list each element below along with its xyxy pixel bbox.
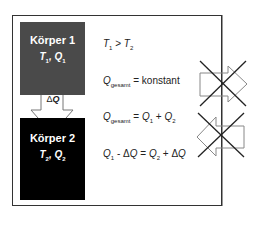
body-2-title: Körper 2 xyxy=(20,132,85,144)
body-1: Körper 1 T1, Q1 xyxy=(20,22,85,95)
body-1-title: Körper 1 xyxy=(20,34,85,46)
equation-temperature: T1 > T2 xyxy=(103,38,133,51)
delta-q-label: ΔQ xyxy=(42,94,64,104)
crossed-arrow-left-icon xyxy=(197,113,244,157)
equation-total-constant: Qgesamt = konstant xyxy=(103,75,180,88)
body-2-variables: T2, Q2 xyxy=(20,149,85,162)
body-2: Körper 2 T2, Q2 xyxy=(20,118,85,200)
equation-total-sum: Qgesamt = Q1 + Q2 xyxy=(103,111,176,124)
body-1-variables: T1, Q1 xyxy=(20,51,85,64)
equation-balance: Q1 - ΔQ = Q2 + ΔQ xyxy=(103,148,186,161)
crossed-arrow-right-icon xyxy=(200,61,247,106)
